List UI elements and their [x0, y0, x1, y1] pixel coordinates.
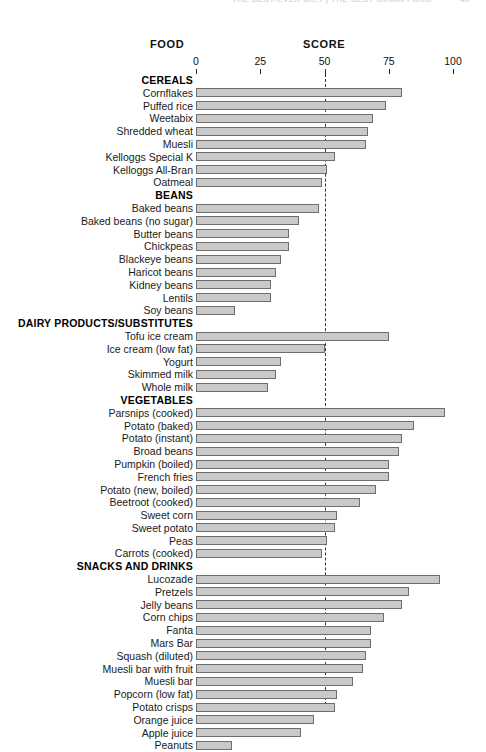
chart-bar-row: Orange juice	[0, 714, 486, 727]
bar-label: Blackeye beans	[119, 253, 193, 266]
chart-bar-row: Blackeye beans	[0, 253, 486, 266]
bar	[196, 498, 360, 507]
chart-bar-row: Shredded wheat	[0, 125, 486, 138]
bar-label: Chickpeas	[144, 240, 193, 253]
bar	[196, 613, 384, 622]
chart-bar-row: Baked beans (no sugar)	[0, 215, 486, 228]
chart-bar-row: Weetabix	[0, 112, 486, 125]
column-heading-score: SCORE	[303, 38, 345, 50]
bar-label: Tofu ice cream	[125, 330, 193, 343]
group-label: VEGETABLES	[121, 394, 193, 407]
bar	[196, 536, 327, 545]
bar	[196, 690, 337, 699]
bar	[196, 639, 371, 648]
bar	[196, 600, 402, 609]
bar-label: Kelloggs All-Bran	[113, 164, 193, 177]
bar-label: Oatmeal	[153, 176, 193, 189]
bar-label: Lentils	[163, 292, 193, 305]
bar-label: Corn chips	[143, 611, 193, 624]
bar	[196, 127, 368, 136]
chart-group-header: VEGETABLES	[0, 394, 486, 407]
chart-group-header: DAIRY PRODUCTS/SUBSTITUTES	[0, 317, 486, 330]
bar	[196, 460, 389, 469]
x-axis-label-0: 0	[193, 55, 199, 67]
bar-label: Shredded wheat	[117, 125, 193, 138]
chart-bar-row: Beetroot (cooked)	[0, 496, 486, 509]
chart-bar-row: Ice cream (low fat)	[0, 343, 486, 356]
chart-bar-row: Lucozade	[0, 573, 486, 586]
running-head-title: THE BEST-EVER DIET | THE BEST GRAIN FOOD	[232, 0, 432, 4]
chart-bar-row: Popcorn (low fat)	[0, 688, 486, 701]
bar-label: Cornflakes	[143, 87, 193, 100]
column-heading-food: FOOD	[150, 38, 184, 50]
bar	[196, 216, 299, 225]
chart-bar-row: Jelly beans	[0, 599, 486, 612]
bar-label: Beetroot (cooked)	[110, 496, 193, 509]
group-label: CEREALS	[141, 74, 193, 87]
chart-bar-row: Kelloggs All-Bran	[0, 164, 486, 177]
chart-bar-row: Sweet potato	[0, 522, 486, 535]
chart-bar-row: Potato (instant)	[0, 432, 486, 445]
chart-bar-row: Chickpeas	[0, 240, 486, 253]
bar	[196, 587, 409, 596]
bar-label: Popcorn (low fat)	[114, 688, 193, 701]
bar-label: Mars Bar	[150, 637, 193, 650]
x-axis-label-100: 100	[444, 55, 462, 67]
bar	[196, 88, 402, 97]
bar	[196, 344, 325, 353]
bar	[196, 204, 319, 213]
bar-label: Weetabix	[149, 112, 193, 125]
bar	[196, 677, 353, 686]
chart-rows: CEREALSCornflakesPuffed riceWeetabixShre…	[0, 74, 486, 752]
bar-label: Carrots (cooked)	[115, 547, 193, 560]
bar-label: Squash (diluted)	[117, 650, 193, 663]
bar	[196, 715, 314, 724]
chart-bar-row: Peanuts	[0, 739, 486, 752]
chart-bar-row: Apple juice	[0, 727, 486, 740]
chart-bar-row: Potato crisps	[0, 701, 486, 714]
bar-label: Potato crisps	[132, 701, 193, 714]
bar	[196, 255, 281, 264]
bar-label: Kidney beans	[129, 279, 193, 292]
chart-bar-row: Puffed rice	[0, 100, 486, 113]
chart-bar-row: Skimmed milk	[0, 368, 486, 381]
chart-bar-row: Muesli	[0, 138, 486, 151]
bar	[196, 703, 335, 712]
bar-label: Pumpkin (boiled)	[114, 458, 193, 471]
chart-bar-row: Carrots (cooked)	[0, 547, 486, 560]
bar-label: Pretzels	[155, 586, 193, 599]
bar-label: Potato (new, boiled)	[100, 484, 193, 497]
chart-bar-row: Whole milk	[0, 381, 486, 394]
chart-bar-row: Baked beans	[0, 202, 486, 215]
bar	[196, 408, 445, 417]
group-label: SNACKS AND DRINKS	[77, 560, 193, 573]
bar	[196, 280, 271, 289]
bar	[196, 511, 337, 520]
chart-bar-row: French fries	[0, 471, 486, 484]
chart-bar-row: Soy beans	[0, 304, 486, 317]
bar-label: Puffed rice	[143, 100, 193, 113]
bar-label: Whole milk	[142, 381, 193, 394]
chart-bar-row: Potato (new, boiled)	[0, 484, 486, 497]
bar	[196, 332, 389, 341]
bar-label: Haricot beans	[128, 266, 193, 279]
bar	[196, 370, 276, 379]
chart-bar-row: Oatmeal	[0, 176, 486, 189]
group-label: DAIRY PRODUCTS/SUBSTITUTES	[18, 317, 193, 330]
bar-label: Muesli bar with fruit	[103, 663, 193, 676]
bar-label: Fanta	[166, 624, 193, 637]
bar-label: Yogurt	[163, 356, 193, 369]
bar	[196, 152, 335, 161]
bar	[196, 268, 276, 277]
bar	[196, 485, 376, 494]
bar-label: Lucozade	[147, 573, 193, 586]
bar	[196, 306, 235, 315]
chart-bar-row: Yogurt	[0, 356, 486, 369]
bar-label: Potato (baked)	[124, 420, 193, 433]
chart-bar-row: Muesli bar with fruit	[0, 663, 486, 676]
bar	[196, 447, 399, 456]
x-axis-label-75: 75	[383, 55, 395, 67]
bar	[196, 178, 322, 187]
bar	[196, 165, 327, 174]
bar	[196, 357, 281, 366]
